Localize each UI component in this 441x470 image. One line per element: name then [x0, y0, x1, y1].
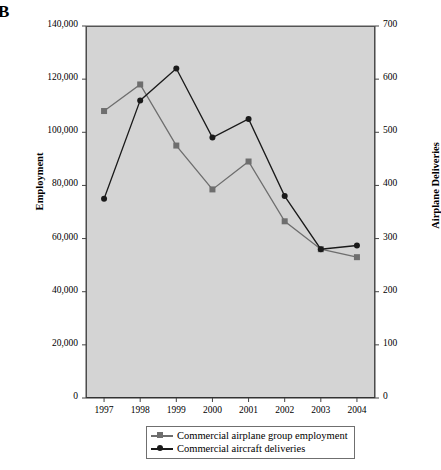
- y-tick-label-right: 400: [383, 178, 423, 188]
- y-tick-label-right: 100: [383, 338, 423, 348]
- y-tick-label-left: 140,000: [20, 19, 78, 29]
- y-tick-label-right: 500: [383, 125, 423, 135]
- x-tick-label: 2004: [334, 405, 380, 415]
- circle-marker-icon: [157, 445, 163, 451]
- legend-label-employment: Commercial airplane group employment: [177, 430, 348, 441]
- legend-label-deliveries: Commercial aircraft deliveries: [177, 443, 305, 454]
- y-axis-title-right: Airplane Deliveries: [430, 121, 441, 251]
- legend-item-deliveries: Commercial aircraft deliveries: [151, 442, 348, 455]
- legend-key-circle: [151, 443, 173, 454]
- y-tick-label-left: 80,000: [20, 178, 78, 188]
- y-tick-label-right: 0: [383, 391, 423, 401]
- y-tick-label-left: 60,000: [20, 232, 78, 242]
- y-tick-label-right: 300: [383, 232, 423, 242]
- legend-key-square: [151, 430, 173, 441]
- y-tick-label-left: 120,000: [20, 72, 78, 82]
- y-tick-label-left: 40,000: [20, 285, 78, 295]
- y-tick-label-left: 0: [20, 391, 78, 401]
- square-marker-icon: [157, 432, 163, 438]
- y-tick-label-right: 600: [383, 72, 423, 82]
- y-tick-label-left: 100,000: [20, 125, 78, 135]
- y-tick-label-right: 200: [383, 285, 423, 295]
- y-tick-label-right: 700: [383, 19, 423, 29]
- legend-item-employment: Commercial airplane group employment: [151, 429, 348, 442]
- y-tick-label-left: 20,000: [20, 338, 78, 348]
- chart-legend: Commercial airplane group employment Com…: [146, 426, 355, 459]
